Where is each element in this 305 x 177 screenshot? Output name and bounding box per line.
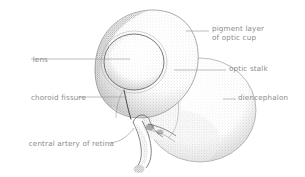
label-choroid-fissure: choroid fissure bbox=[2, 93, 86, 102]
label-diencephalon: diencephalon bbox=[238, 93, 304, 102]
label-pigment-layer-line1: pigment layer bbox=[212, 24, 264, 33]
label-pigment-layer: pigment layer of optic cup bbox=[212, 24, 304, 42]
figure-canvas: pigment layer of optic cup optic stalk d… bbox=[0, 0, 305, 177]
label-central-artery-of-retina: central artery of retina bbox=[2, 139, 114, 148]
label-optic-stalk: optic stalk bbox=[229, 64, 303, 73]
label-pigment-layer-line2: of optic cup bbox=[212, 33, 256, 42]
label-lens: lens bbox=[4, 55, 48, 64]
